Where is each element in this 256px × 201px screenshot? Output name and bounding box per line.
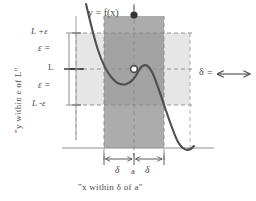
caption-y-within-epsilon: "y within ε of L"	[14, 67, 23, 133]
y-label-epsilon-upper: ε =	[38, 44, 51, 54]
delta-legend-equals: =	[207, 68, 213, 78]
y-label-L: L	[48, 63, 54, 72]
filled-point-marker	[130, 11, 137, 18]
x-label-delta-right: δ	[145, 166, 149, 176]
open-point-marker	[131, 66, 138, 73]
x-label-a: a	[131, 167, 135, 176]
delta-legend-symbol: δ	[199, 67, 204, 77]
y-label-epsilon-lower: ε =	[38, 81, 51, 91]
function-label: y = f(x)	[88, 8, 119, 18]
y-label-L-plus-epsilon: L +ε	[31, 27, 48, 36]
caption-x-within-delta: "x within δ of a"	[78, 183, 143, 192]
y-label-L-minus-epsilon: L -ε	[32, 99, 46, 108]
limit-definition-figure: L +ε ε = L ε = L -ε y = f(x) δ a δ δ = "…	[0, 0, 256, 201]
x-label-delta-left: δ	[115, 166, 119, 176]
